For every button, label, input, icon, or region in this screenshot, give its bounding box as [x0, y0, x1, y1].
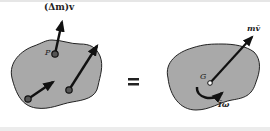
- diagram-canvas: [0, 0, 270, 131]
- center-G-label: G: [200, 72, 206, 81]
- angular-momentum-label: Īω: [218, 99, 229, 109]
- particle-momentum-label: (Δm)v: [44, 2, 74, 12]
- particle-right: [66, 87, 72, 93]
- particle-bottom: [25, 96, 31, 102]
- mass-center-G: [208, 81, 213, 86]
- equals-sign: [128, 78, 139, 86]
- momentum-equivalence-diagram: (Δm)v P G mv̄ Īω: [0, 0, 270, 131]
- particle-P: [52, 51, 58, 57]
- linear-momentum-label: mv̄: [247, 23, 260, 33]
- right-rigid-body: [167, 44, 259, 110]
- point-P-label: P: [45, 48, 50, 57]
